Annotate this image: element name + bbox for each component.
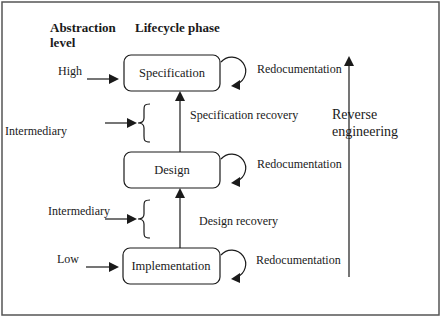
level-intermediary-upper-label: Intermediary bbox=[5, 124, 67, 138]
specification-label: Specification bbox=[139, 66, 206, 80]
implementation-label: Implementation bbox=[131, 259, 211, 273]
abstraction-level-header-line1: Abstraction bbox=[50, 20, 116, 35]
phase-design: Design bbox=[124, 152, 220, 188]
design-redocumentation-label: Redocumentation bbox=[257, 157, 342, 171]
abstraction-level-header-line2: level bbox=[50, 35, 76, 50]
specification-redocumentation-label: Redocumentation bbox=[257, 62, 342, 76]
reverse-engineering-label-line1: Reverse bbox=[332, 107, 377, 122]
level-high-label: High bbox=[58, 64, 82, 78]
design-recovery-label: Design recovery bbox=[199, 214, 278, 228]
reverse-engineering-diagram: Abstraction level Lifecycle phase High S… bbox=[0, 0, 443, 322]
design-label: Design bbox=[154, 163, 190, 177]
implementation-redocumentation-label: Redocumentation bbox=[256, 253, 341, 267]
phase-specification: Specification bbox=[124, 55, 220, 91]
level-intermediary-lower-label: Intermediary bbox=[48, 204, 110, 218]
specification-recovery-label: Specification recovery bbox=[190, 108, 298, 122]
lifecycle-phase-header: Lifecycle phase bbox=[135, 20, 220, 35]
phase-implementation: Implementation bbox=[123, 248, 220, 284]
reverse-engineering-label-line2: engineering bbox=[332, 124, 398, 139]
level-low-label: Low bbox=[57, 252, 79, 266]
